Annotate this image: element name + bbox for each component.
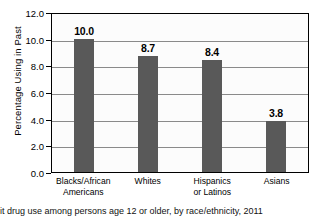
bar-value-label: 3.8 (244, 107, 308, 119)
bar-value-label: 10.0 (52, 25, 116, 37)
x-axis-category-labels: Blacks/AfricanAmericansWhitesHispanicsor… (51, 176, 309, 202)
y-axis-tick-label: 10.0 (18, 34, 44, 45)
bar-chart-figure: Percentage Using in Past 0.02.04.06.08.0… (0, 0, 322, 216)
y-axis-tick-labels: 0.02.04.06.08.010.012.0 (18, 13, 44, 173)
bar-value-label: 8.7 (116, 42, 180, 54)
x-axis-category-label-line: Americans (52, 187, 115, 198)
bar-slot: 10.0 (52, 14, 116, 172)
figure-caption: it drug use among persons age 12 or olde… (0, 206, 322, 216)
x-axis-category-label: Hispanicsor Latinos (180, 176, 245, 202)
y-axis-tick-label: 6.0 (18, 88, 44, 99)
bar-value-label: 8.4 (180, 46, 244, 58)
y-axis-tick-label: 4.0 (18, 114, 44, 125)
bar (74, 39, 94, 172)
bar-slot: 3.8 (244, 14, 308, 172)
bar (266, 121, 286, 172)
x-axis-category-label: Whites (116, 176, 181, 202)
x-axis-category-label-line: Blacks/African (52, 176, 115, 187)
bar (202, 60, 222, 172)
bar-slot: 8.4 (180, 14, 244, 172)
x-axis-category-label: Asians (245, 176, 310, 202)
y-axis-tick-label: 2.0 (18, 141, 44, 152)
bar-series: 10.08.78.43.8 (52, 14, 308, 172)
y-axis-tick-mark (46, 173, 51, 174)
bar (138, 56, 158, 172)
plot-area: 10.08.78.43.8 (51, 13, 309, 173)
bar-slot: 8.7 (116, 14, 180, 172)
y-axis-tick-label: 0.0 (18, 168, 44, 179)
x-axis-category-label: Blacks/AfricanAmericans (51, 176, 116, 202)
x-axis-category-label-line: Hispanics (181, 176, 244, 187)
y-axis-tick-label: 12.0 (18, 8, 44, 19)
x-axis-category-label-line: Whites (117, 176, 180, 187)
y-axis-tick-label: 8.0 (18, 61, 44, 72)
x-axis-category-label-line: Asians (246, 176, 309, 187)
x-axis-category-label-line: or Latinos (181, 187, 244, 198)
